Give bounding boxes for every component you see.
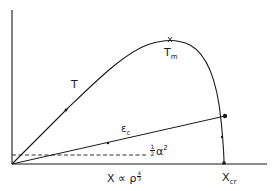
epsilon-c-label-sub: c [126, 129, 130, 137]
t-max-label-sub: m [171, 53, 178, 61]
threshold-label-sup: 2 [163, 144, 167, 152]
x-axis-label-main: X ∝ ρ [107, 172, 136, 185]
epsilon-c-label: εc [121, 124, 130, 134]
temperature-descent-dot [221, 136, 223, 138]
threshold-label: 1 2 α2 [150, 145, 168, 158]
critical-point-label-main: X [222, 171, 230, 184]
temperature-curve [12, 40, 224, 164]
x-axis-exponent-den: 3 [138, 177, 141, 182]
critical-point-label-sub: cr [230, 178, 237, 186]
t-max-label-main: T [164, 46, 171, 59]
threshold-fraction-den: 2 [151, 151, 155, 157]
t-max-cross-icon [168, 37, 172, 42]
x-axis-exponent: 4 3 [137, 171, 141, 182]
threshold-fraction: 1 2 [150, 144, 155, 157]
t-max-label: Tm [164, 47, 178, 58]
temperature-label: T [71, 79, 78, 90]
epsilon-c-end-dot [223, 114, 227, 118]
diagram-canvas [0, 0, 276, 191]
epsilon-c-mid-dot [107, 142, 110, 145]
epsilon-c-line [12, 116, 225, 164]
temperature-mid-dot [65, 109, 68, 112]
critical-point-label: Xcr [222, 172, 236, 183]
critical-point-dot [222, 161, 226, 165]
x-axis-label: X ∝ ρ 4 3 [107, 173, 141, 189]
